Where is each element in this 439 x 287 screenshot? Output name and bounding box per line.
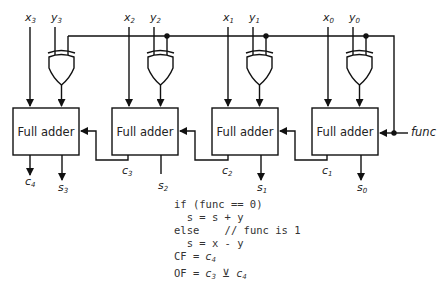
carry-c3: c3: [122, 165, 133, 178]
code-line-4: s = x - y: [174, 237, 300, 250]
input-y2: y2: [150, 12, 161, 25]
input-x2: x2: [124, 12, 135, 25]
full-adder-2: Full adder: [112, 125, 178, 139]
full-adder-0: Full adder: [312, 125, 378, 139]
full-adder-3: Full adder: [13, 125, 79, 139]
func-bus-line: [68, 36, 394, 133]
output-s1: s1: [257, 182, 267, 195]
input-x0: x0: [323, 12, 334, 25]
code-line-3: else // func is 1: [174, 224, 300, 237]
code-line-6: OF = c3 ⊻ c4: [174, 267, 300, 284]
carry-c1: c1: [322, 165, 333, 178]
input-y1: y1: [249, 12, 260, 25]
code-line-5: CF = c4: [174, 250, 300, 267]
carry-c2: c2: [222, 165, 233, 178]
output-s0: s0: [357, 182, 367, 195]
code-line-1: if (func == 0): [174, 198, 300, 211]
input-y3: y3: [51, 12, 62, 25]
pseudocode-block: if (func == 0) s = s + yelse // func is …: [174, 198, 300, 284]
output-s3: s3: [58, 182, 68, 195]
output-s2: s2: [158, 180, 168, 193]
code-line-2: s = s + y: [174, 211, 300, 224]
func-label: func: [411, 127, 436, 139]
input-y0: y0: [349, 12, 360, 25]
full-adder-1: Full adder: [212, 125, 278, 139]
input-x3: x3: [25, 12, 36, 25]
input-x1: x1: [223, 12, 234, 25]
output-c4: c4: [25, 176, 36, 189]
